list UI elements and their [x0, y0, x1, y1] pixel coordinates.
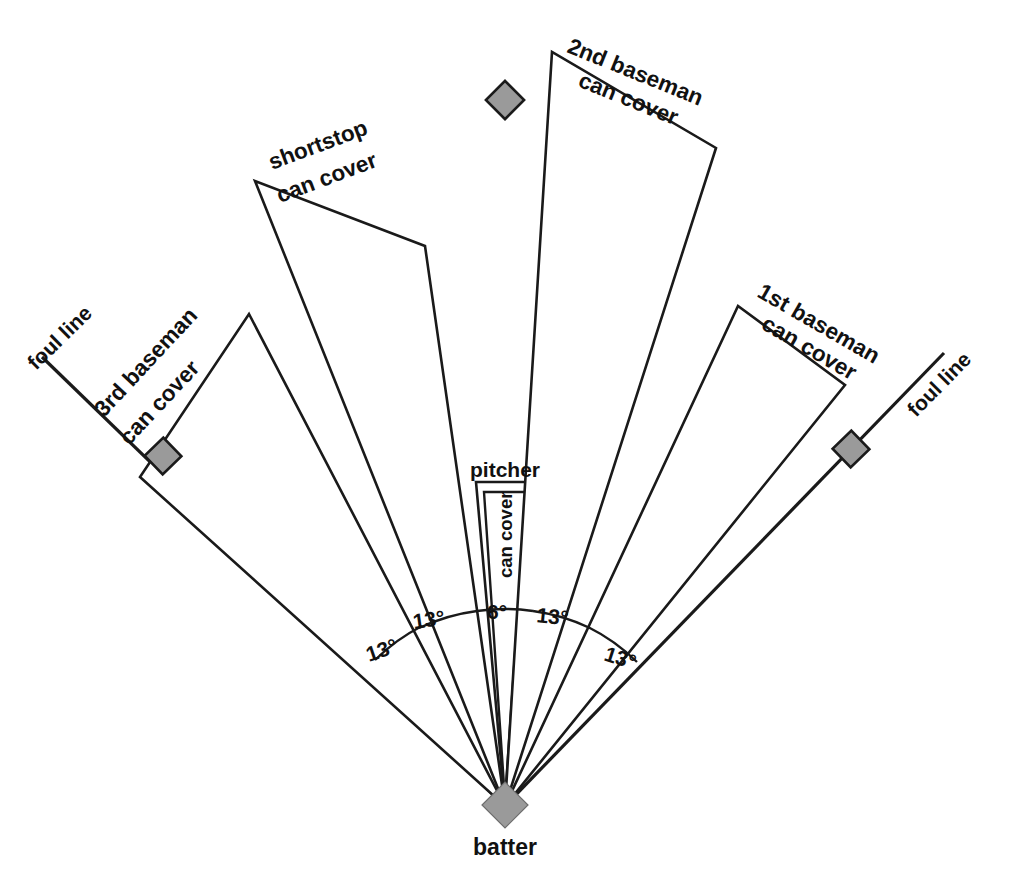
angle-label-2: 13°	[411, 606, 446, 633]
batter-label: batter	[473, 834, 537, 860]
angle-label-3: 6°	[487, 600, 507, 623]
pitcher-sublabel: can cover	[495, 492, 516, 578]
foul-line-left-label: foul line	[23, 301, 97, 374]
pitcher-label: pitcher	[470, 458, 540, 481]
second-base-marker	[486, 81, 524, 119]
angle-label-4: 13°	[536, 603, 570, 629]
baseball-coverage-diagram: foul line foul line 3rd baseman can cove…	[0, 0, 1012, 876]
field-diagram-canvas: foul line foul line 3rd baseman can cove…	[0, 0, 1012, 876]
